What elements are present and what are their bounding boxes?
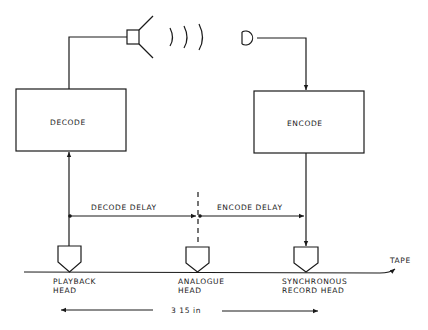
playback-head-label: PLAYBACK HEAD xyxy=(53,277,96,296)
sound-waves-icon xyxy=(170,24,203,50)
tape-label: TAPE xyxy=(390,256,411,265)
decode-label: DECODE xyxy=(50,118,86,127)
microphone-to-encode-line xyxy=(257,38,306,90)
analogue-head-label: ANALOGUE HEAD xyxy=(178,277,225,296)
encode-label: ENCODE xyxy=(287,119,323,128)
decode-to-speaker-line xyxy=(69,37,127,89)
encode-delay-label: ENCODE DELAY xyxy=(217,203,283,212)
loudspeaker-icon xyxy=(127,16,153,58)
analogue-head xyxy=(186,247,209,272)
tape-line xyxy=(24,269,395,273)
synchronous-head-label: SYNCHRONOUS RECORD HEAD xyxy=(282,277,347,296)
playback-head xyxy=(58,246,81,272)
spacing-label: 3 15 in xyxy=(171,306,201,315)
decode-delay-label: DECODE DELAY xyxy=(91,203,157,212)
microphone-icon xyxy=(242,31,253,45)
synchronous-record-head xyxy=(294,247,318,272)
